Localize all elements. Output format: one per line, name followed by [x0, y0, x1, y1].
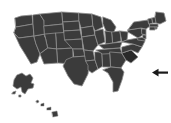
state-tx[interactable] [63, 56, 89, 86]
state-ct[interactable] [150, 27, 155, 30]
hawaii-inset-group [36, 100, 58, 117]
state-ma[interactable] [150, 24, 158, 27]
state-hi-oahu[interactable] [41, 103, 44, 106]
us-map-figure [0, 0, 171, 123]
alaska-aleutian-2 [19, 95, 21, 97]
alaska-aleutian-1 [12, 91, 16, 94]
state-nd[interactable] [62, 12, 79, 22]
state-mn[interactable] [79, 13, 93, 28]
state-nj[interactable] [142, 29, 146, 35]
state-hi-maui[interactable] [47, 107, 51, 110]
arrow-shaft [157, 72, 168, 74]
state-ny[interactable] [128, 20, 150, 30]
state-fl[interactable] [103, 67, 124, 92]
alaska-inset-group [12, 73, 34, 97]
pointer-arrow [152, 69, 168, 77]
state-wi[interactable] [92, 14, 103, 31]
state-oh[interactable] [112, 31, 121, 43]
state-de[interactable] [143, 35, 146, 39]
state-sd[interactable] [63, 21, 80, 31]
state-ar[interactable] [84, 50, 95, 61]
state-hi-bigisland[interactable] [52, 111, 58, 117]
state-me[interactable] [155, 12, 166, 24]
contiguous-states-group [14, 12, 166, 92]
state-hi-kauai[interactable] [36, 100, 39, 103]
arrow-left-icon [152, 69, 159, 77]
us-map-svg[interactable] [0, 0, 171, 123]
state-ne[interactable] [64, 30, 82, 40]
